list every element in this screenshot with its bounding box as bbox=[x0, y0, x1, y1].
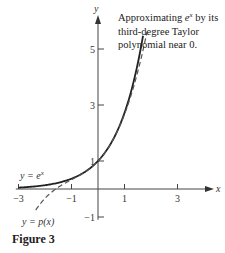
y-axis-label: y bbox=[93, 3, 99, 14]
figure-caption: Figure 3 bbox=[12, 232, 55, 247]
y-tick-label: 3 bbox=[90, 100, 95, 111]
x-axis-arrow bbox=[205, 186, 214, 192]
annotation-line: third-degree Taylor bbox=[118, 26, 199, 37]
x-axis-label: x bbox=[215, 183, 221, 194]
curves bbox=[19, 32, 148, 210]
x-tick-label: 3 bbox=[175, 193, 180, 204]
curve-exp bbox=[19, 36, 144, 188]
y-axis-arrow bbox=[95, 15, 101, 24]
x-tick-label: −1 bbox=[66, 193, 77, 204]
x-tick-label: 1 bbox=[122, 193, 127, 204]
y-tick-label: 1 bbox=[90, 156, 95, 167]
y-tick-label: 5 bbox=[90, 44, 95, 55]
labels: xy−3−113−1135y = exy = p(x)Approximating… bbox=[13, 3, 221, 228]
series-label-taylor: y = p(x) bbox=[21, 216, 55, 228]
annotation-line: Approximating ex by its bbox=[118, 11, 218, 23]
x-tick-label: −3 bbox=[13, 193, 24, 204]
series-label-exp: y = ex bbox=[19, 169, 45, 181]
chart: xy−3−113−1135y = exy = p(x)Approximating… bbox=[0, 0, 225, 253]
annotation-line: polynomial near 0. bbox=[118, 39, 197, 50]
y-tick-label: −1 bbox=[84, 212, 95, 223]
